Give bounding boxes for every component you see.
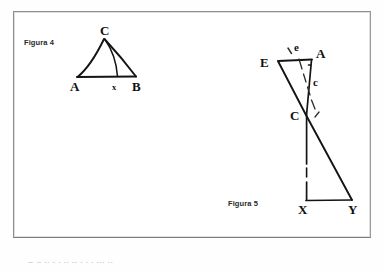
segment-AB	[77, 77, 136, 78]
bottom-cut-text-strip: a u .. t . .. n . . . ... ..	[0, 262, 385, 272]
label-x-figura-4: x	[112, 82, 117, 92]
label-angle-e-figura-5: e	[294, 41, 299, 53]
label-angle-c-figura-5: c	[313, 76, 318, 88]
label-Y-figura-5: Y	[348, 202, 358, 217]
figura-4-caption: Figura 4	[24, 38, 54, 47]
segment-EA	[278, 60, 312, 62]
segment-CB	[105, 39, 137, 77]
label-E-figura-5: E	[260, 55, 269, 70]
label-C-figura-4: C	[100, 23, 109, 38]
angle-e-tick	[288, 48, 292, 54]
bottom-cut-text: a u .. t . .. n . . . ... ..	[28, 262, 113, 265]
segment-XY	[306, 200, 352, 201]
label-B-figura-4: B	[132, 79, 141, 94]
figura-4-drawing: C A x B	[60, 22, 160, 94]
figura-5-caption: Figura 5	[228, 199, 258, 208]
label-A-figura-4: A	[70, 79, 80, 94]
label-A-figura-5: A	[316, 46, 326, 61]
segment-AC	[78, 39, 105, 77]
figura-5-drawing: E A C X Y e c	[258, 36, 378, 216]
scanned-page: Figura 4 C A x B Figura 5	[0, 0, 385, 272]
label-X-figura-5: X	[298, 202, 308, 217]
label-C-figura-5: C	[290, 108, 299, 123]
angle-c-tick-lower	[315, 112, 319, 117]
